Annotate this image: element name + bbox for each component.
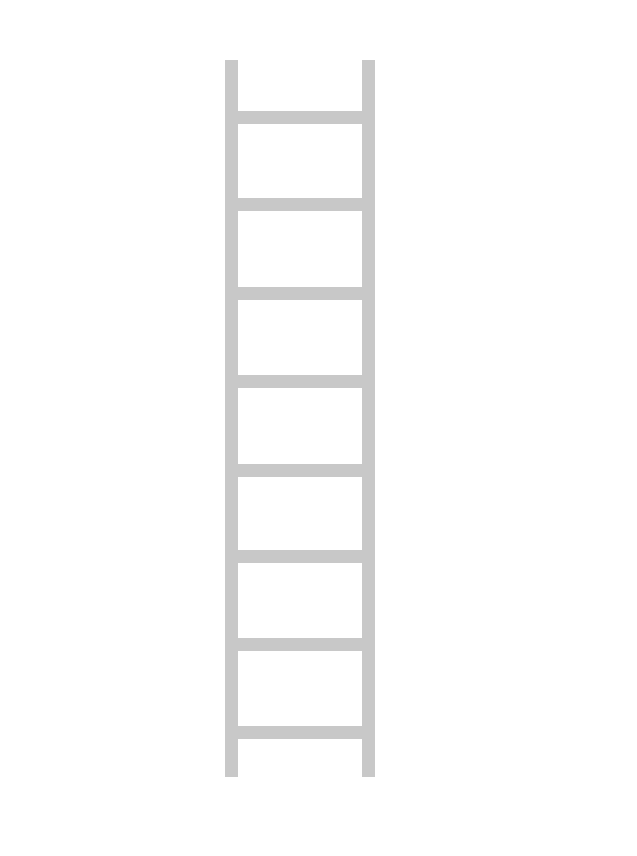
ladder-rung — [238, 198, 362, 211]
ladder-rung — [238, 287, 362, 300]
ladder-rung — [238, 375, 362, 388]
ladder-rung — [238, 111, 362, 124]
ladder-rung — [238, 550, 362, 563]
right-rail — [362, 60, 375, 777]
ladder-rung — [238, 638, 362, 651]
ladder-rung — [238, 726, 362, 739]
ladder-rung — [238, 464, 362, 477]
ladder-illustration — [0, 0, 637, 856]
left-rail — [225, 60, 238, 777]
